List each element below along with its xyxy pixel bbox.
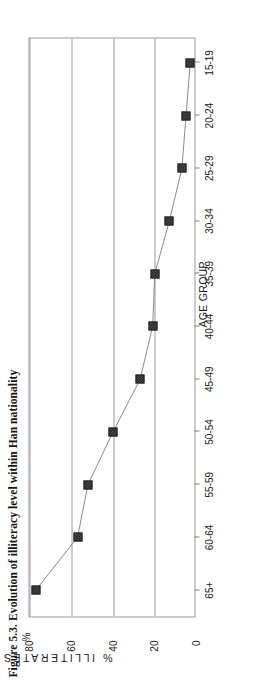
data-point-marker [31,585,40,594]
x-tick-label: 60-64 [203,524,214,550]
plot-area: 020406080 65+60-6455-5950-5445-4940-4435… [28,37,195,617]
y-tick-label: 40 [107,640,118,651]
data-point-marker [135,374,144,383]
data-point-marker [150,269,159,278]
figure-rotator: Figure 5.3. Evolution of illiteracy leve… [0,0,259,685]
x-tick-label: 35-39 [203,260,214,286]
data-point-marker [181,111,190,120]
y-axis-title: % ILLITERATES [1,651,112,663]
data-point-marker [108,427,117,436]
x-tick-label: 15-19 [203,50,214,76]
data-point-marker [185,58,194,67]
data-point-marker [177,163,186,172]
figure-5-3: Figure 5.3. Evolution of illiteracy leve… [0,0,259,685]
x-tick-label: 20-24 [203,102,214,128]
x-tick-label: 50-54 [203,419,214,445]
data-point-marker [148,322,157,331]
x-tick-label: 25-29 [203,155,214,181]
x-tick-label: 40-44 [203,313,214,339]
x-tick-label: 65+ [203,581,214,598]
data-point-marker [73,532,82,541]
figure-title: Figure 5.3. Evolution of illiteracy leve… [6,369,18,677]
x-tick-label: 45-49 [203,366,214,392]
x-tick-label: 55-59 [203,471,214,497]
y-tick-label: 80 [24,640,35,651]
y-tick-label: 60 [65,640,76,651]
data-point-marker [164,216,173,225]
y-tick-label: 0 [191,640,202,646]
x-tick-label: 30-34 [203,208,214,234]
series-line [29,36,196,616]
y-tick-label: 20 [149,640,160,651]
data-point-marker [83,480,92,489]
